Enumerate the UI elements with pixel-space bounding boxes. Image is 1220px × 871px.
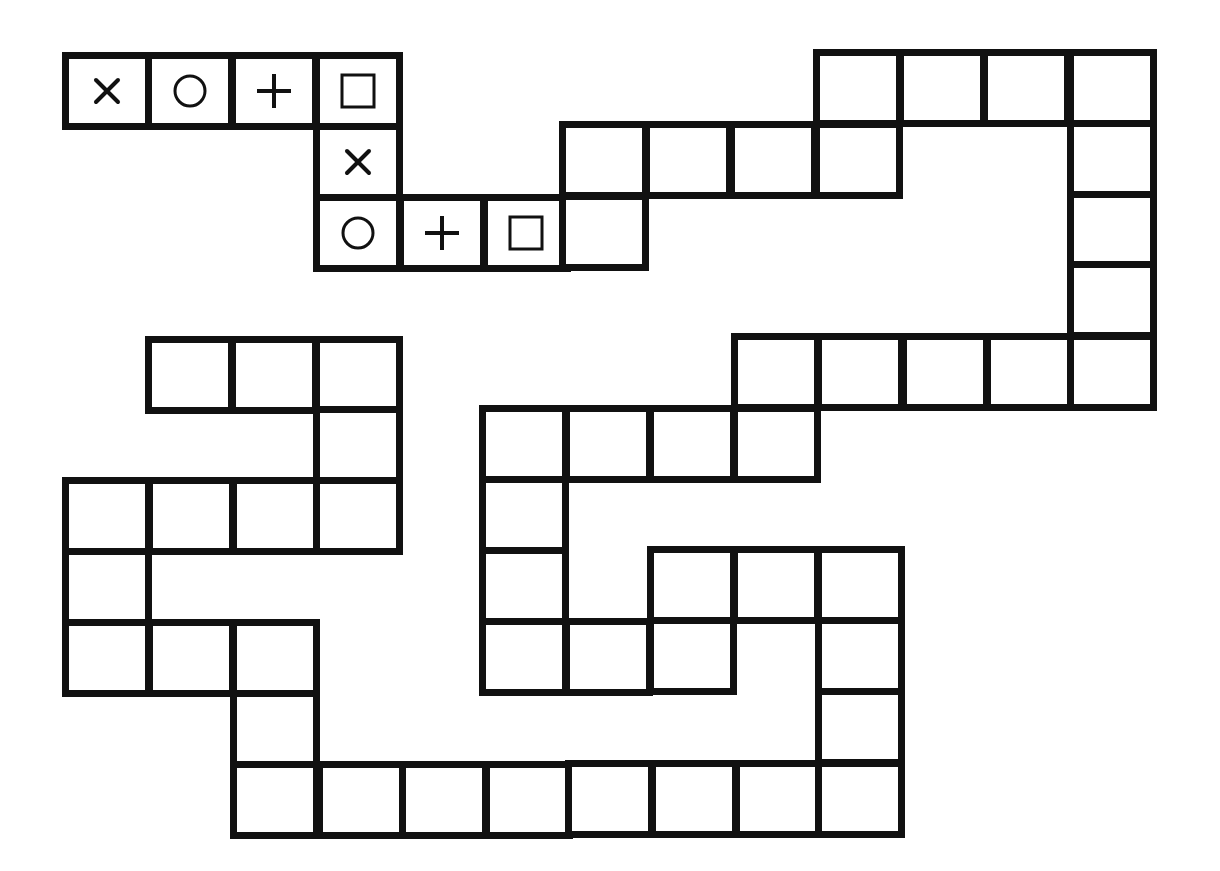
- plus-icon: [256, 73, 292, 109]
- cross-icon: [89, 73, 125, 109]
- board-cell[interactable]: [313, 406, 403, 484]
- board-cell-plus[interactable]: [397, 194, 487, 272]
- board-cell-square[interactable]: [481, 194, 571, 272]
- board-cell[interactable]: [897, 49, 987, 127]
- board-cell[interactable]: [483, 761, 573, 839]
- board-cell[interactable]: [1067, 49, 1157, 127]
- board-cell[interactable]: [559, 193, 649, 271]
- board-cell[interactable]: [563, 405, 653, 483]
- board-cell[interactable]: [815, 760, 905, 838]
- board-cell[interactable]: [815, 688, 905, 766]
- board-cell-circle[interactable]: [145, 52, 235, 130]
- board-cell[interactable]: [815, 546, 905, 624]
- board-cell[interactable]: [399, 761, 489, 839]
- board-cell[interactable]: [313, 477, 403, 555]
- circle-icon: [340, 215, 376, 251]
- square-icon: [340, 73, 376, 109]
- board-cell-square[interactable]: [313, 52, 403, 130]
- board-cell[interactable]: [230, 761, 320, 839]
- board-cell[interactable]: [230, 477, 320, 555]
- board-cell[interactable]: [565, 760, 655, 838]
- board-cell[interactable]: [647, 405, 737, 483]
- board-cell[interactable]: [479, 476, 569, 554]
- board-cell[interactable]: [145, 336, 235, 414]
- board-cell[interactable]: [1067, 191, 1157, 269]
- board-cell[interactable]: [62, 619, 152, 697]
- board-cell[interactable]: [728, 121, 818, 199]
- puzzle-board: [0, 0, 1220, 871]
- board-cell[interactable]: [62, 477, 152, 555]
- board-cell[interactable]: [731, 546, 821, 624]
- board-cell[interactable]: [731, 405, 821, 483]
- board-cell[interactable]: [146, 477, 236, 555]
- board-cell[interactable]: [815, 617, 905, 695]
- board-cell[interactable]: [813, 121, 903, 199]
- board-cell[interactable]: [731, 333, 821, 411]
- board-cell[interactable]: [479, 547, 569, 625]
- board-cell[interactable]: [559, 121, 649, 199]
- board-cell[interactable]: [146, 619, 236, 697]
- board-cell[interactable]: [1067, 333, 1157, 411]
- board-cell[interactable]: [563, 618, 653, 696]
- board-cell[interactable]: [733, 760, 823, 838]
- board-cell-cross[interactable]: [313, 123, 403, 201]
- board-cell[interactable]: [643, 121, 733, 199]
- board-cell[interactable]: [313, 336, 403, 414]
- board-cell[interactable]: [316, 761, 406, 839]
- board-cell[interactable]: [647, 617, 737, 695]
- board-cell-plus[interactable]: [229, 52, 319, 130]
- board-cell[interactable]: [479, 405, 569, 483]
- cross-icon: [340, 144, 376, 180]
- board-cell[interactable]: [649, 760, 739, 838]
- board-cell-cross[interactable]: [62, 52, 152, 130]
- board-cell-circle[interactable]: [313, 194, 403, 272]
- board-cell[interactable]: [984, 333, 1074, 411]
- square-icon: [508, 215, 544, 251]
- board-cell[interactable]: [815, 333, 905, 411]
- circle-icon: [172, 73, 208, 109]
- board-cell[interactable]: [62, 548, 152, 626]
- board-cell[interactable]: [230, 619, 320, 697]
- plus-icon: [424, 215, 460, 251]
- board-cell[interactable]: [900, 333, 990, 411]
- board-cell[interactable]: [1067, 261, 1157, 339]
- board-cell[interactable]: [230, 690, 320, 768]
- board-cell[interactable]: [647, 546, 737, 624]
- board-cell[interactable]: [813, 49, 903, 127]
- board-cell[interactable]: [1067, 120, 1157, 198]
- board-cell[interactable]: [981, 49, 1071, 127]
- board-cell[interactable]: [229, 336, 319, 414]
- board-cell[interactable]: [479, 618, 569, 696]
